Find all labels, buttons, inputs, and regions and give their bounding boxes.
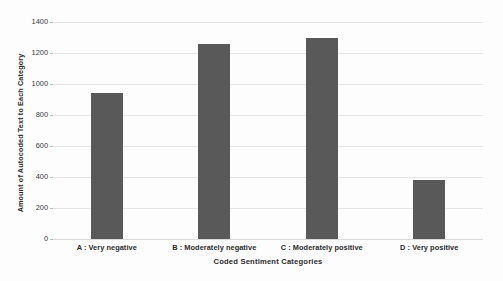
x-axis-category-label: C : Moderately positive [268,242,376,254]
y-axis-tick-label: 600 [8,142,48,149]
y-axis-tick-label: 1000 [8,80,48,87]
y-axis-tick-label: 200 [8,204,48,211]
y-axis-tick-label: 400 [8,173,48,180]
bar [306,38,338,239]
bar-chart: Amount of Autocoded Text to Each Categor… [0,0,503,281]
x-axis-category-labels: A : Very negativeB : Moderately negative… [53,242,483,256]
bars-layer [53,22,483,239]
bar [91,93,123,239]
x-axis-category-label: B : Moderately negative [161,242,269,254]
y-axis-tick-label: 1400 [8,18,48,25]
y-axis-tick-mark [50,239,53,240]
bar [413,180,445,239]
x-axis-category-label: D : Very positive [376,242,484,254]
y-axis-tick-label: 1200 [8,49,48,56]
gridline: 0 [53,239,483,240]
y-axis-tick-label: 0 [8,235,48,242]
x-axis-title: Coded Sentiment Categories [53,257,483,266]
bar [198,44,230,239]
y-axis-tick-label: 800 [8,111,48,118]
x-axis-category-label: A : Very negative [53,242,161,254]
plot-area: 0200400600800100012001400 [53,22,483,239]
